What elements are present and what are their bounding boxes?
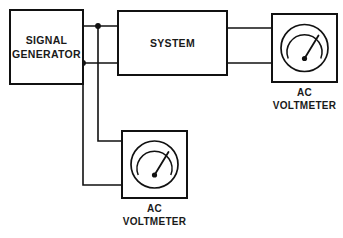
signal-generator-label-line2: GENERATOR (12, 48, 81, 60)
voltmeter-bottom-gauge-icon (131, 141, 178, 188)
voltmeter-right-label-line1: AC (297, 87, 312, 98)
system-label: SYSTEM (150, 37, 195, 49)
signal-generator-label-line1: SIGNAL (26, 34, 68, 46)
voltmeter-right-needle-pivot (302, 56, 307, 61)
voltmeter-bottom-block[interactable]: AC VOLTMETER (122, 131, 187, 227)
voltmeter-right-label-line2: VOLTMETER (273, 100, 337, 111)
block-diagram-canvas: SIGNAL GENERATOR SYSTEM AC VOLTMETER (0, 0, 343, 238)
signal-generator-block[interactable]: SIGNAL GENERATOR (10, 10, 83, 84)
block-diagram-svg: SIGNAL GENERATOR SYSTEM AC VOLTMETER (0, 0, 343, 238)
voltmeter-right-gauge-icon (281, 25, 328, 72)
voltmeter-bottom-label-line2: VOLTMETER (123, 216, 187, 227)
voltmeter-bottom-label-line1: AC (147, 203, 162, 214)
voltmeter-bottom-needle-pivot (152, 172, 157, 177)
voltmeter-right-block[interactable]: AC VOLTMETER (272, 14, 337, 111)
system-block[interactable]: SYSTEM (118, 11, 227, 75)
wire-tap-bottom-to-bottom-voltmeter (83, 63, 122, 185)
junction-dot-top (95, 23, 101, 29)
signal-generator-box (10, 10, 83, 84)
